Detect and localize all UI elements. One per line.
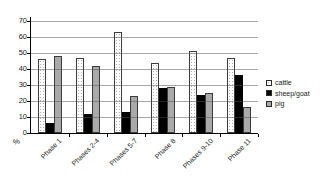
x-category-label: Phases 9-10 (181, 137, 214, 170)
bar-cattle (189, 51, 197, 133)
x-axis-tick (220, 134, 221, 137)
x-category-label: Phase 1 (40, 137, 63, 160)
legend-label: sheep/goat (275, 90, 310, 97)
x-category-label: Phases 2-4 (71, 137, 101, 167)
legend-label: pig (275, 100, 284, 107)
y-axis-unit-label: % (12, 136, 21, 147)
legend-item-pig: pig (266, 100, 310, 107)
x-axis-tick (258, 134, 259, 137)
legend-item-cattle: cattle (266, 79, 310, 86)
y-tick-label: 20 (11, 97, 27, 105)
bar-sheep-goat (159, 88, 167, 133)
bar-pig (243, 107, 251, 133)
gridline (31, 85, 258, 86)
bar-cattle (151, 63, 159, 133)
y-tick-label: 60 (11, 33, 27, 41)
x-axis-tick (107, 134, 108, 137)
bar-sheep-goat (122, 112, 130, 133)
gridline (31, 117, 258, 118)
bar-cattle (38, 59, 46, 133)
y-tick-label: 40 (11, 65, 27, 73)
gridline (31, 53, 258, 54)
bar-pig (54, 56, 62, 133)
y-axis-line (30, 17, 31, 134)
bar-pig (92, 66, 100, 133)
y-tick-label: 10 (11, 113, 27, 121)
y-tick-label: 70 (11, 17, 27, 25)
x-axis-tick (69, 134, 70, 137)
legend-item-sheep-goat: sheep/goat (266, 90, 310, 97)
x-category-label: Phase 11 (227, 137, 253, 163)
legend-marker-cattle (266, 80, 272, 86)
x-category-label: Phase 8 (153, 137, 176, 160)
bar-chart: cattlesheep/goatpig 010203040506070%Phas… (0, 0, 325, 183)
legend-marker-pig (266, 101, 272, 107)
x-axis-tick (145, 134, 146, 137)
gridline (31, 101, 258, 102)
gridline (31, 37, 258, 38)
x-axis-tick (182, 134, 183, 137)
bar-pig (205, 93, 213, 133)
bar-pig (167, 87, 175, 133)
y-tick-label: 50 (11, 49, 27, 57)
x-category-label: Phases 5-7 (109, 137, 139, 167)
y-tick-label: 30 (11, 81, 27, 89)
bar-sheep-goat (46, 123, 54, 133)
gridline (31, 69, 258, 70)
y-tick-label: 0 (11, 129, 27, 137)
legend-label: cattle (275, 79, 292, 86)
gridline (31, 21, 258, 22)
legend-marker-sheep-goat (266, 90, 272, 96)
chart-legend: cattlesheep/goatpig (266, 79, 310, 107)
